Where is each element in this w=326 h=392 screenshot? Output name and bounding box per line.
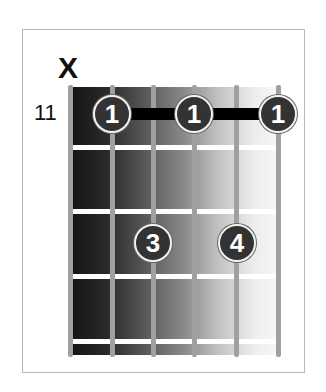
finger-dot: 3 — [134, 224, 172, 262]
finger-dot: 1 — [93, 95, 131, 133]
finger-dot: 4 — [218, 224, 256, 262]
fret-line — [70, 274, 278, 279]
string-3 — [151, 85, 156, 357]
finger-dot: 1 — [259, 95, 297, 133]
string-1 — [68, 85, 73, 357]
fret-line — [70, 209, 278, 214]
start-fret-label: 11 — [34, 101, 57, 125]
string-5 — [234, 85, 239, 357]
muted-string-marker: X — [55, 50, 81, 86]
fret-line — [70, 145, 278, 150]
finger-dot: 1 — [175, 95, 213, 133]
fret-line — [70, 339, 278, 344]
